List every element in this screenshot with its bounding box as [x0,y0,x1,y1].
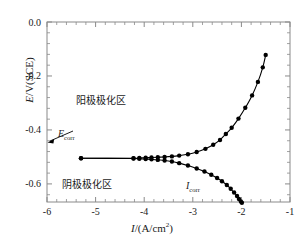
cathodic-branch-marker [170,159,174,163]
anodic-branch-marker [224,132,228,136]
ecorr-annotation: Ecorr [58,128,75,141]
cathodic-branch-marker [194,166,198,170]
y-axis-label-unit: /V(SCE) [23,57,35,96]
anodic-branch-marker [229,126,233,130]
anodic-branch-marker [250,93,254,97]
cathodic-zone-label: 阴极极化区 [62,176,112,191]
cathodic-branch-marker [79,156,83,160]
anodic-branch-marker [186,152,190,156]
polarization-curve-chart: -6-5-4-3-2-1 0.0-0.2-0.4-0.6 [0,0,304,242]
anodic-branch-marker [264,53,268,57]
anodic-branch-marker [177,153,181,157]
anodic-branch-marker [243,106,247,110]
anodic-branch-marker [203,147,207,151]
x-tick-label: -3 [189,206,197,217]
x-tick-label: -1 [286,206,294,217]
ecorr-subscript: corr [64,134,74,141]
cathodic-branch-marker [202,169,206,173]
x-tick-label: -6 [43,206,51,217]
icorr-subscript: corr [189,186,199,193]
cathodic-branch-marker [186,163,190,167]
anodic-branch-marker [218,138,222,142]
anodic-branch-marker [261,65,265,69]
cathodic-branch-marker [143,157,147,161]
cathodic-branch-marker [162,158,166,162]
y-axis-label-symbol: E [23,96,35,103]
anodic-branch-marker [236,116,240,120]
y-tick-label: -0.6 [25,178,41,189]
x-tick-label: -4 [140,206,148,217]
x-axis-label-unit-pre: /(A/cm [135,222,166,234]
x-axis-label-unit-post: ) [169,222,173,234]
anodic-branch-marker [194,150,198,154]
cathodic-branch-marker [215,176,219,180]
cathodic-branch-marker [156,158,160,162]
cathodic-branch-marker [225,183,229,187]
x-tick-label: -2 [237,206,245,217]
cathodic-branch-marker [149,157,153,161]
cathodic-branch-marker [137,157,141,161]
anodic-branch-marker [170,154,174,158]
icorr-annotation: Icorr [186,180,200,193]
cathodic-branch-marker [177,161,181,165]
cathodic-branch-marker [229,187,233,191]
cathodic-branch-marker [240,201,244,205]
cathodic-branch-marker [220,179,224,183]
cathodic-branch-marker [209,173,213,177]
anodic-branch-marker [256,80,260,84]
x-tick-label: -5 [91,206,99,217]
anodic-zone-label: 阳极极化区 [76,92,126,107]
cathodic-branch-marker [232,190,236,194]
x-axis-label: I/(A/cm2) [0,221,304,234]
y-axis-label: E/V(SCE) [23,25,35,135]
cathodic-branch-marker [131,156,135,160]
anodic-branch-marker [211,143,215,147]
